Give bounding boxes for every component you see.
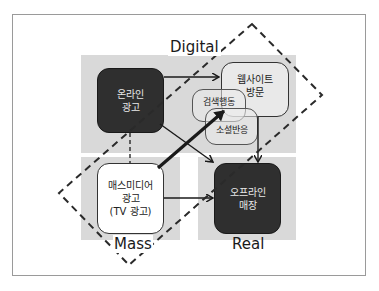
dashed-diamond — [59, 24, 322, 265]
arrow-mass-to-search — [158, 111, 224, 168]
label-digital: Digital — [168, 38, 221, 56]
label-mass: Mass — [113, 235, 153, 253]
label-real: Real — [232, 235, 264, 253]
